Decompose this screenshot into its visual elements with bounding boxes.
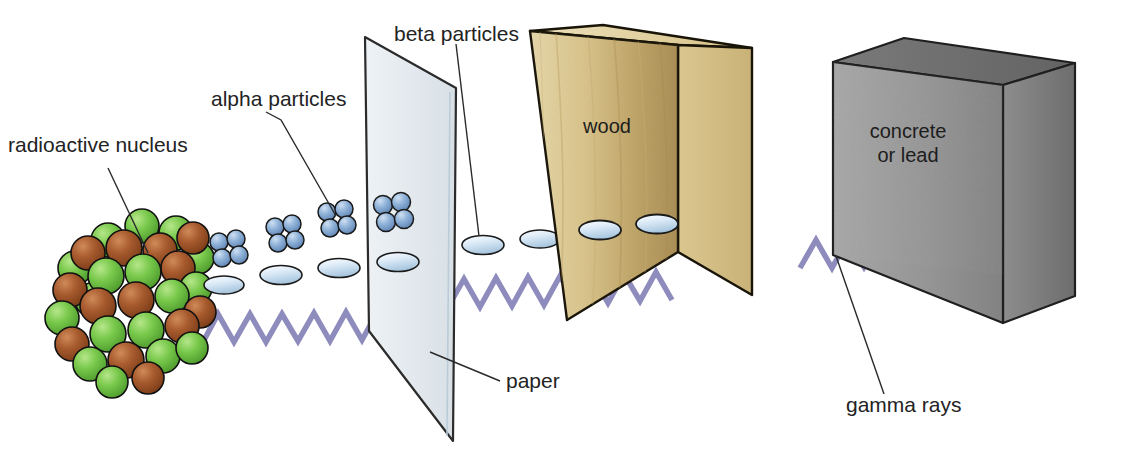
- label-paper: paper: [506, 369, 560, 392]
- alpha-particle-group: [210, 200, 356, 267]
- beta-particle: [260, 266, 302, 285]
- label-gamma-rays: gamma rays: [846, 393, 962, 416]
- diagram-canvas: wood concrete or lead: [0, 0, 1127, 475]
- alpha-particle: [318, 200, 356, 237]
- concrete-face-label-line1: concrete: [870, 120, 947, 142]
- radioactive-nucleus: [45, 209, 216, 398]
- leader-gamma-rays: [836, 256, 884, 394]
- beta-particle-group-after-paper: [462, 230, 560, 255]
- leader-alpha-particles: [266, 112, 336, 216]
- beta-particle: [377, 253, 419, 272]
- leader-beta-particles: [456, 44, 479, 236]
- beta-particle: [462, 236, 504, 255]
- beta-particle: [318, 259, 360, 278]
- alpha-particle: [266, 215, 304, 252]
- radiation-penetration-diagram: wood concrete or lead: [0, 0, 1127, 475]
- wood-face-label: wood: [582, 115, 631, 137]
- beta-particle: [520, 230, 560, 248]
- barrier-wood: wood: [530, 20, 752, 330]
- label-alpha-particles: alpha particles: [211, 87, 346, 110]
- beta-particle: [204, 276, 244, 294]
- label-beta-particles: beta particles: [394, 22, 519, 45]
- beta-particle: [579, 221, 621, 240]
- concrete-face-label-line2: or lead: [877, 144, 938, 166]
- beta-particle: [636, 215, 678, 234]
- barrier-paper: [365, 37, 456, 441]
- label-radioactive-nucleus: radioactive nucleus: [8, 133, 188, 156]
- alpha-particle: [210, 230, 248, 267]
- barrier-concrete-or-lead: concrete or lead: [825, 38, 1075, 340]
